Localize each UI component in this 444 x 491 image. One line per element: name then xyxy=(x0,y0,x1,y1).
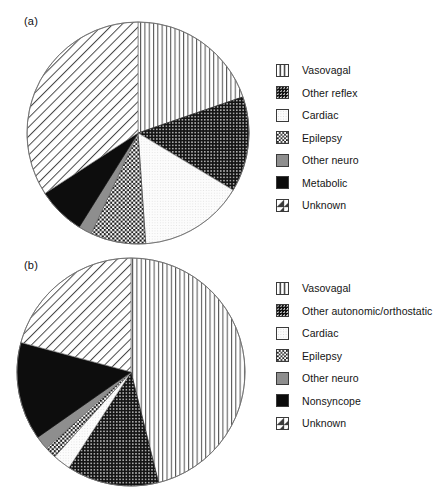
pie-b-slices xyxy=(17,258,245,486)
legend-item-cardiac: Cardiac xyxy=(276,323,444,343)
legend-swatch-checkerboard-icon xyxy=(276,349,289,362)
legend-item-unknown: Unknown xyxy=(276,413,444,433)
legend-label: Other neuro xyxy=(302,154,359,166)
legend-label: Other autonomic/orthostatic xyxy=(302,305,432,317)
legend-label: Vasovagal xyxy=(302,64,351,76)
legend-swatch-diagonal-lines-icon xyxy=(276,199,289,212)
legend-item-other-reflex: Other reflex xyxy=(276,83,444,103)
legend-swatch-solid-black-icon xyxy=(276,394,289,407)
pie-chart-b xyxy=(16,257,246,487)
legend-swatch-vertical-lines-icon xyxy=(276,282,289,295)
figure-two-pie-charts: (a) xyxy=(0,0,444,491)
legend-item-nonsyncope: Nonsyncope xyxy=(276,391,444,411)
legend-label: Nonsyncope xyxy=(302,395,361,407)
legend-item-other-neuro: Other neuro xyxy=(276,150,444,170)
pie-chart-a xyxy=(24,19,252,247)
panel-a: (a) xyxy=(0,0,444,250)
legend-label: Unknown xyxy=(302,417,346,429)
legend-item-vasovagal: Vasovagal xyxy=(276,278,444,298)
legend-item-unknown: Unknown xyxy=(276,195,444,215)
legend-label: Other reflex xyxy=(302,87,357,99)
legend-item-epilepsy: Epilepsy xyxy=(276,346,444,366)
legend-swatch-light-stipple-icon xyxy=(276,327,289,340)
legend-item-other-neuro: Other neuro xyxy=(276,368,444,388)
legend-item-metabolic: Metabolic xyxy=(276,173,444,193)
legend-a: Vasovagal Other reflex Cardiac Epilepsy … xyxy=(276,60,444,218)
legend-item-other-autonomic-orthostatic: Other autonomic/orthostatic xyxy=(276,301,444,321)
panel-b: (b) xyxy=(0,250,444,491)
legend-label: Metabolic xyxy=(302,177,347,189)
legend-label: Unknown xyxy=(302,199,346,211)
legend-label: Epilepsy xyxy=(302,350,342,362)
legend-label: Vasovagal xyxy=(302,282,351,294)
legend-swatch-light-stipple-icon xyxy=(276,109,289,122)
legend-b: Vasovagal Other autonomic/orthostatic Ca… xyxy=(276,278,444,436)
legend-swatch-solid-gray-icon xyxy=(276,154,289,167)
legend-label: Cardiac xyxy=(302,327,339,339)
legend-swatch-dense-dots-icon xyxy=(276,86,289,99)
legend-label: Cardiac xyxy=(302,109,339,121)
legend-item-vasovagal: Vasovagal xyxy=(276,60,444,80)
legend-item-epilepsy: Epilepsy xyxy=(276,128,444,148)
legend-swatch-solid-black-icon xyxy=(276,176,289,189)
legend-swatch-dense-dots-icon xyxy=(276,304,289,317)
pie-b-svg xyxy=(16,257,246,487)
legend-swatch-diagonal-lines-icon xyxy=(276,417,289,430)
legend-item-cardiac: Cardiac xyxy=(276,105,444,125)
legend-label: Other neuro xyxy=(302,372,359,384)
legend-label: Epilepsy xyxy=(302,132,342,144)
pie-a-svg xyxy=(24,19,252,247)
pie-a-slices xyxy=(27,22,249,244)
legend-swatch-vertical-lines-icon xyxy=(276,64,289,77)
legend-swatch-solid-gray-icon xyxy=(276,372,289,385)
legend-swatch-checkerboard-icon xyxy=(276,131,289,144)
